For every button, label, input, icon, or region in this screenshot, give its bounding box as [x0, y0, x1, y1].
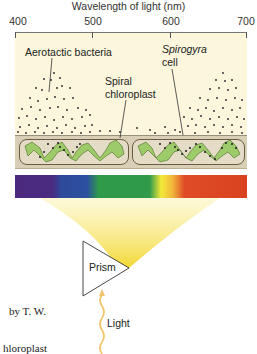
- bacteria-dots-left: [17, 72, 121, 134]
- leader-line-chloroplast: [120, 100, 126, 138]
- light-arrow-icon: [100, 295, 104, 354]
- label-prism: Prism: [89, 261, 116, 273]
- bacteria-dots-right: [136, 72, 245, 134]
- light-cone: [40, 198, 220, 268]
- leader-line-cell: [172, 69, 183, 135]
- light-arrowhead-icon: [99, 289, 105, 296]
- caption-line: by T. W.: [0, 305, 57, 317]
- leader-line-bacteria: [49, 58, 52, 92]
- spiral-chloroplast-right: [138, 140, 240, 162]
- caption-text: by T. W. hloroplast king bacteria ere ch…: [0, 281, 57, 354]
- label-light: Light: [107, 317, 130, 329]
- spiral-chloroplast-left: [25, 140, 124, 162]
- caption-line: hloroplast: [0, 342, 57, 354]
